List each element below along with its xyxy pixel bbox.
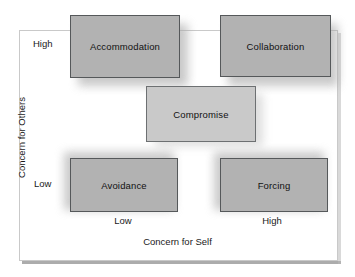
y-axis-title: Concern for Others [16, 73, 27, 203]
y-axis-tick-high: High [33, 38, 53, 49]
conflict-styles-diagram: Accommodation Collaboration Compromise A… [0, 0, 355, 277]
style-box-avoidance-label: Avoidance [101, 180, 147, 191]
style-box-accommodation[interactable]: Accommodation [70, 15, 180, 78]
x-axis-title: Concern for Self [0, 236, 355, 247]
style-box-collaboration-label: Collaboration [247, 41, 305, 52]
frame-bottom-shadow [22, 261, 341, 264]
style-box-avoidance[interactable]: Avoidance [70, 158, 178, 212]
x-axis-tick-low: Low [103, 215, 143, 226]
style-box-accommodation-label: Accommodation [90, 41, 160, 52]
style-box-collaboration[interactable]: Collaboration [220, 15, 331, 77]
style-box-forcing-label: Forcing [258, 180, 291, 191]
x-axis-tick-high: High [252, 215, 292, 226]
y-axis-tick-low: Low [34, 178, 51, 189]
style-box-compromise-label: Compromise [173, 109, 228, 120]
style-box-forcing[interactable]: Forcing [220, 158, 328, 212]
style-box-compromise[interactable]: Compromise [146, 86, 256, 142]
frame-right-shadow [338, 33, 341, 264]
